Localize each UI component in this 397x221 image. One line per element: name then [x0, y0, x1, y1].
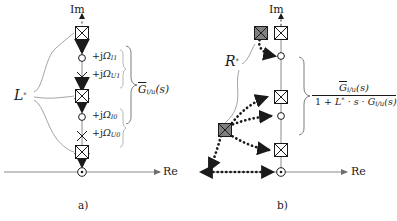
numerator-base: G [339, 82, 347, 93]
label-plant-arg: (s) [156, 83, 170, 95]
label-loop-gain-star: * [23, 91, 26, 99]
marker-zero-circle [79, 55, 86, 62]
frequency-symbol: Ω [103, 127, 111, 138]
sub-brace-upper-a [120, 50, 126, 88]
frequency-label-u1: +jΩU1 [92, 69, 120, 80]
marker-boxed-x [76, 27, 89, 40]
leader-lines-a [34, 33, 74, 152]
figure-root: Im Re L* +jΩI1 +jΩU1 +jΩI0 +jΩU0 Gi/u(s)… [0, 0, 397, 221]
label-controller-star: * [236, 57, 239, 65]
panel-a: Im Re L* +jΩI1 +jΩU1 +jΩI0 +jΩU0 Gi/u(s)… [0, 0, 198, 221]
marker-origin-circle-dot [78, 168, 87, 177]
axis-label-real: Re [351, 166, 366, 177]
frequency-label-i1: +jΩI1 [92, 51, 118, 62]
marker-origin-circle-dot [277, 168, 286, 177]
label-controller-r-star: R* [225, 54, 239, 68]
frequency-subscript: U1 [111, 72, 121, 80]
axis-label-real: Re [163, 166, 178, 177]
marker-boxed-x [76, 146, 89, 159]
panel-caption-a: a) [78, 200, 88, 211]
label-closed-loop-transfer-function: Gi/u(s) 1 + L* · s · Gi/u(s) [312, 82, 396, 109]
marker-boxed-x [275, 91, 288, 104]
frequency-prefix: +j [92, 68, 103, 79]
label-loop-gain-l-star: L* [14, 88, 27, 102]
numerator-subscript: i/u [347, 86, 356, 94]
panel-caption-b: b) [277, 200, 288, 211]
fraction-numerator: Gi/u(s) [312, 82, 396, 95]
sub-brace-lower-a [120, 109, 126, 147]
label-plant-transfer-function: Gi/u(s) [138, 84, 169, 96]
marker-zero-circle [278, 53, 285, 60]
fraction-denominator: 1 + L* · s · Gi/u(s) [312, 95, 396, 108]
frequency-symbol: Ω [103, 109, 111, 120]
frequency-label-u0: +jΩU0 [92, 128, 120, 139]
frequency-subscript: I0 [111, 113, 118, 121]
frequency-prefix: +j [92, 109, 103, 120]
frequency-subscript: I1 [111, 54, 118, 62]
group-brace-a [126, 46, 137, 124]
marker-zero-circle [79, 114, 86, 121]
marker-boxed-x [275, 27, 288, 40]
axis-label-imaginary: Im [70, 4, 85, 15]
label-loop-gain-base: L [14, 87, 23, 103]
panel-b: Im Re R* Gi/u(s) 1 + L* · s · Gi/u(s) b) [199, 0, 397, 221]
label-plant-subscript: i/u [146, 88, 155, 96]
group-brace-b [299, 57, 310, 135]
frequency-subscript: U0 [111, 131, 121, 139]
frequency-symbol: Ω [103, 68, 111, 79]
label-controller-base: R [225, 53, 236, 69]
marker-shifted-boxed-x [255, 27, 268, 40]
marker-boxed-x [275, 144, 288, 157]
marker-boxed-x [76, 90, 89, 103]
frequency-symbol: Ω [103, 50, 111, 61]
frequency-label-i0: +jΩI0 [92, 110, 118, 121]
axis-label-imaginary: Im [269, 4, 284, 15]
frequency-prefix: +j [92, 50, 103, 61]
marker-shifted-boxed-x [219, 124, 232, 137]
frequency-prefix: +j [92, 127, 103, 138]
numerator-arg: (s) [356, 82, 369, 93]
marker-zero-circle [278, 113, 285, 120]
panel-b-canvas [199, 0, 397, 221]
